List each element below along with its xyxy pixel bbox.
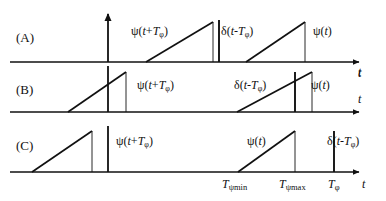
signal-label-b-delta-impulse: δ(t-Tφ) — [234, 78, 266, 93]
signal-label-c-psi-advanced: ψ(t+Tφ) — [116, 134, 153, 149]
ramp-psi-advanced-B — [68, 72, 126, 112]
signal-label-b-psi-advanced: ψ(t+Tφ) — [137, 78, 174, 93]
row-label-c: (C) — [16, 138, 33, 154]
signal-label-a-psi-advanced: ψ(t+Tφ) — [131, 24, 168, 39]
tick-label-t-psi-max: Tψmax — [279, 177, 306, 192]
signal-label-b-psi-current: ψ(t) — [311, 78, 330, 93]
signal-label-c-delta-impulse: δ(t-Tφ) — [327, 134, 359, 149]
tick-label-t-psi-min: Tψmin — [222, 177, 247, 192]
vertical-axis-arrowhead-A — [105, 13, 112, 21]
row-label-b: (B) — [16, 82, 33, 98]
ramp-psi-advanced-C — [32, 131, 92, 172]
row-label-a: (A) — [16, 30, 34, 46]
axis-label-t-row-a-lower: t — [358, 66, 361, 81]
signal-label-c-psi-current: ψ(t) — [247, 134, 266, 149]
signal-label-a-delta-impulse: δ(t-Tφ) — [221, 24, 253, 39]
signal-label-a-psi-current: ψ(t) — [313, 24, 332, 39]
tick-label-t-phi: Tφ — [328, 177, 340, 192]
axis-label-t-row-b: t — [358, 92, 361, 107]
timing-diagram-figure: (A) (B) (C) ψ(t+Tφ) δ(t-Tφ) ψ(t) ψ(t+Tφ)… — [0, 0, 386, 201]
plot-group — [10, 13, 359, 172]
ramp-psi-current-A — [246, 22, 305, 62]
axis-label-t-row-c: t — [362, 177, 365, 192]
